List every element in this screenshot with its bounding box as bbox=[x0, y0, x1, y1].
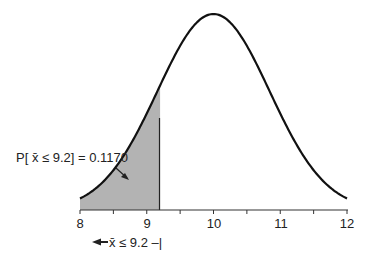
normal-distribution-chart: 8 9 10 11 12 P[ x̄ ≤ 9.2] = 0.1170 x̄ ≤ … bbox=[0, 0, 373, 259]
probability-label: P[ x̄ ≤ 9.2] = 0.1170 bbox=[16, 150, 128, 165]
tick-label-11: 11 bbox=[274, 216, 288, 231]
tick-label-9: 9 bbox=[143, 216, 150, 231]
tick-label-12: 12 bbox=[340, 216, 354, 231]
tick-label-10: 10 bbox=[207, 216, 221, 231]
range-label: x̄ ≤ 9.2 –| bbox=[109, 235, 162, 250]
x-axis-ticks bbox=[80, 210, 347, 214]
tick-label-8: 8 bbox=[76, 216, 83, 231]
left-arrow-icon bbox=[92, 239, 101, 246]
